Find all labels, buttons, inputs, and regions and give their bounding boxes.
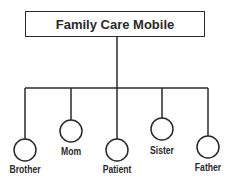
root-node-title: Family Care Mobile — [25, 11, 205, 37]
node-label-mom: Mom — [61, 145, 81, 157]
node-label-patient: Patient — [103, 163, 132, 175]
node-label-brother: Brother — [9, 163, 40, 175]
node-label-father: Father — [195, 161, 221, 173]
node-label-sister: Sister — [150, 144, 174, 156]
